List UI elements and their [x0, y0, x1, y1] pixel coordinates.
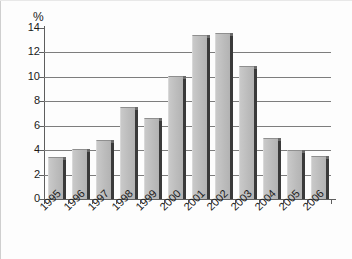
bar-top-bevel [135, 107, 138, 110]
y-axis-tick-label: 4 [2, 144, 40, 155]
bar-top-bevel [111, 140, 114, 143]
bar-top-bevel [230, 33, 233, 36]
bar [239, 66, 254, 199]
bar [168, 76, 183, 199]
bar-shadow [159, 121, 162, 199]
bar-shadow [254, 69, 257, 199]
y-axis-tick-label: 10 [2, 71, 40, 82]
bar-top-bevel [254, 66, 257, 69]
bar [120, 107, 135, 199]
bar [144, 118, 159, 199]
bar-top-bevel [326, 156, 329, 159]
frame-top-edge [0, 0, 352, 1]
bar-shadow [207, 38, 210, 199]
bar-shadow [87, 152, 90, 199]
bar-shadow [230, 36, 233, 199]
bar-shadow [183, 79, 186, 199]
bar-shadow [302, 153, 305, 199]
x-axis-tick [331, 199, 332, 204]
bar-top-bevel [159, 118, 162, 121]
y-axis-tick-label: 2 [2, 169, 40, 180]
y-axis-labels: 02468101214 [0, 0, 40, 259]
bar-top-bevel [302, 150, 305, 153]
bar-top-bevel [183, 76, 186, 79]
bar-top-bevel [63, 157, 66, 160]
bar-shadow [278, 141, 281, 199]
bar-shadow [111, 143, 114, 199]
bar [215, 33, 230, 199]
bar-top-bevel [278, 138, 281, 141]
y-axis-tick-label: 12 [2, 46, 40, 57]
x-axis-tick-label: 1995 [38, 188, 63, 213]
bar-shadow [63, 160, 66, 199]
bar-chart: % 02468101214 19951996199719981999200020… [0, 0, 352, 259]
y-axis-tick-label: 14 [2, 22, 40, 33]
y-axis-tick-label: 8 [2, 95, 40, 106]
y-axis-tick-label: 6 [2, 120, 40, 131]
bar-shadow [135, 110, 138, 199]
bar-shadow [326, 159, 329, 199]
bar-top-bevel [87, 149, 90, 152]
y-axis-tick-label: 0 [2, 193, 40, 204]
plot-area [44, 28, 331, 199]
bar-top-bevel [207, 35, 210, 38]
bar [192, 35, 207, 199]
